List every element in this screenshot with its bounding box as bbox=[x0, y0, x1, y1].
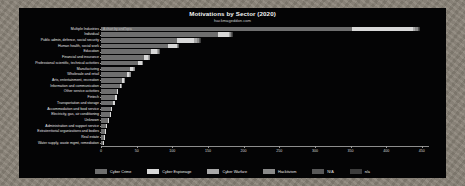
bar-segment[interactable] bbox=[101, 95, 115, 100]
y-axis-label: Wholesale and retail bbox=[67, 72, 99, 77]
bar-segment[interactable] bbox=[101, 89, 117, 94]
x-axis-tick-label: 50 bbox=[135, 149, 139, 153]
bar-segment[interactable] bbox=[101, 32, 218, 37]
legend-item[interactable]: n/a bbox=[350, 169, 370, 174]
x-axis-tick bbox=[101, 146, 102, 148]
chart-title: Motivations by Sector (2020) bbox=[19, 10, 446, 17]
x-axis-tick-label: 100 bbox=[169, 149, 175, 153]
bar-segment[interactable] bbox=[115, 95, 116, 100]
x-axis-tick-label: 300 bbox=[312, 149, 318, 153]
y-axis-label: Professional scientific, technical activ… bbox=[35, 61, 99, 66]
y-axis-label: Accommodation and food service bbox=[47, 107, 99, 112]
bar-segment[interactable] bbox=[108, 118, 109, 123]
bar-segment[interactable] bbox=[111, 107, 112, 112]
y-axis-label: Individual bbox=[84, 32, 99, 37]
x-axis-tick-label: 150 bbox=[205, 149, 211, 153]
y-axis-label: Manufacturing bbox=[77, 67, 99, 72]
y-axis-label: Other service activities bbox=[64, 89, 99, 94]
bar-segment[interactable] bbox=[200, 38, 201, 43]
y-axis-label: Financial and insurance bbox=[62, 55, 99, 60]
x-axis-tick bbox=[137, 146, 138, 148]
bar-segment[interactable] bbox=[103, 141, 104, 146]
bar-segment[interactable] bbox=[352, 27, 413, 32]
chart-annotation: A chart by andTopia bbox=[103, 27, 132, 32]
bar-segment[interactable] bbox=[101, 61, 138, 66]
y-axis-label: Arts, entertainment, recreation bbox=[52, 78, 99, 83]
bar-segment[interactable] bbox=[101, 38, 177, 43]
bar-segment[interactable] bbox=[110, 112, 111, 117]
y-axis-label: Administration and support service bbox=[45, 124, 99, 129]
y-axis-label: Public admin, defence, social security bbox=[41, 38, 99, 43]
bar-segment[interactable] bbox=[419, 27, 420, 32]
bar-segment[interactable] bbox=[178, 44, 179, 49]
y-axis-label: Education bbox=[83, 49, 99, 54]
bar-segment[interactable] bbox=[218, 32, 229, 37]
y-axis-label: Real estate bbox=[81, 135, 99, 140]
x-axis-tick-label: 250 bbox=[276, 149, 282, 153]
y-axis-label: Fintech bbox=[88, 95, 99, 100]
legend-swatch bbox=[312, 169, 324, 174]
x-axis-tick-label: 0 bbox=[100, 149, 102, 153]
bar-segment[interactable] bbox=[177, 38, 193, 43]
legend-item[interactable]: Cyber Espionage bbox=[147, 169, 191, 174]
legend-item[interactable]: Hacktivism bbox=[263, 169, 296, 174]
bar-segment[interactable] bbox=[117, 89, 118, 94]
bar-segment[interactable] bbox=[101, 107, 111, 112]
x-axis-tick bbox=[172, 146, 173, 148]
legend-swatch bbox=[147, 169, 159, 174]
y-axis-label: Human health, social work bbox=[58, 44, 99, 49]
bar-segment[interactable] bbox=[101, 55, 144, 60]
chart-legend: Cyber CrimeCyber EspionageCyber WarfareH… bbox=[19, 169, 446, 174]
legend-item[interactable]: N/A bbox=[312, 169, 333, 174]
bar-segment[interactable] bbox=[101, 112, 110, 117]
bar-segment[interactable] bbox=[101, 118, 108, 123]
bar-segment[interactable] bbox=[101, 44, 168, 49]
bar-segment[interactable] bbox=[149, 55, 150, 60]
legend-label: n/a bbox=[365, 170, 370, 174]
legend-swatch bbox=[207, 169, 219, 174]
y-axis-label: Water supply, waste mgmt, remediation bbox=[38, 141, 99, 146]
x-axis-tick bbox=[208, 146, 209, 148]
bar-segment[interactable] bbox=[101, 72, 127, 77]
x-axis-tick bbox=[244, 146, 245, 148]
bar-segment[interactable] bbox=[101, 49, 151, 54]
bar-segment[interactable] bbox=[105, 129, 106, 134]
bar-segment[interactable] bbox=[101, 67, 130, 72]
chart-card: Motivations by Sector (2020) hackmageddo… bbox=[19, 8, 446, 178]
bar-segment[interactable] bbox=[232, 32, 233, 37]
y-axis-label: Electricity, gas, air conditioning bbox=[51, 112, 99, 117]
bar-segment[interactable] bbox=[168, 44, 177, 49]
y-axis-label: Unknown bbox=[84, 118, 99, 123]
bar-segment[interactable] bbox=[121, 84, 122, 89]
legend-label: Hacktivism bbox=[278, 170, 296, 174]
x-axis-tick-label: 200 bbox=[241, 149, 247, 153]
bar-segment[interactable] bbox=[142, 61, 143, 66]
bar-segment[interactable] bbox=[159, 49, 160, 54]
bar-segment[interactable] bbox=[101, 27, 352, 32]
bar-segment[interactable] bbox=[101, 101, 113, 106]
x-axis-tick-label: 400 bbox=[383, 149, 389, 153]
bar-segment[interactable] bbox=[101, 78, 122, 83]
y-axis-label: Multiple Industries bbox=[71, 27, 99, 32]
y-axis-label: Transportation and storage bbox=[57, 101, 99, 106]
bar-segment[interactable] bbox=[113, 101, 114, 106]
legend-swatch bbox=[350, 169, 362, 174]
y-axis-label: Information and communication bbox=[50, 84, 99, 89]
bar-segment[interactable] bbox=[106, 124, 107, 129]
bar-segment[interactable] bbox=[104, 135, 105, 140]
bar-segment[interactable] bbox=[101, 84, 120, 89]
legend-item[interactable]: Cyber Warfare bbox=[207, 169, 247, 174]
x-axis-tick-label: 350 bbox=[348, 149, 354, 153]
x-axis-ticks: 050100150200250300350400450 bbox=[101, 146, 429, 158]
legend-item[interactable]: Cyber Crime bbox=[95, 169, 131, 174]
x-axis-tick bbox=[279, 146, 280, 148]
x-axis-tick bbox=[315, 146, 316, 148]
legend-label: Cyber Warfare bbox=[222, 170, 247, 174]
x-axis-tick-label: 450 bbox=[419, 149, 425, 153]
bar-segment[interactable] bbox=[130, 72, 131, 77]
x-axis-tick bbox=[386, 146, 387, 148]
x-axis-tick bbox=[351, 146, 352, 148]
bar-segment[interactable] bbox=[124, 78, 125, 83]
legend-label: Cyber Crime bbox=[110, 170, 131, 174]
bar-segment[interactable] bbox=[134, 67, 135, 72]
